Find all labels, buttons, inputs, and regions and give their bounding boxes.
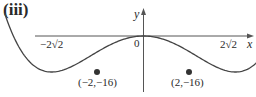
minimum-left-label: (−2,−16)	[78, 76, 117, 88]
y-axis-arrow-icon	[141, 8, 146, 15]
chart-plot	[0, 0, 256, 97]
x-axis-label: x	[247, 37, 252, 52]
minimum-right-label: (2,−16)	[171, 76, 204, 88]
minimum-point-right	[186, 69, 192, 75]
y-axis-label: y	[134, 7, 139, 22]
x-intercept-right-label: 2√2	[220, 38, 237, 50]
minimum-point-left	[94, 69, 100, 75]
x-intercept-left-label: −2√2	[40, 38, 63, 50]
origin-label: 0	[134, 37, 140, 49]
